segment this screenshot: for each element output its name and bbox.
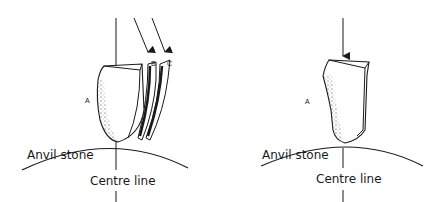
label-flake-c: C (167, 60, 172, 67)
label-centre-line: Centre line (316, 172, 382, 186)
label-anvil-stone: Anvil stone (27, 148, 94, 162)
left-figure-drawing (0, 0, 219, 202)
strike-arrow-c (152, 18, 165, 52)
strike-arrow-b (134, 18, 148, 52)
bipolar-flaking-figure-right: A Anvil stone Centre line (219, 0, 438, 202)
label-core-a: A (85, 97, 90, 104)
label-centre-line: Centre line (90, 174, 156, 188)
bipolar-flaking-figure-left: A B C Anvil stone Centre line (0, 0, 219, 202)
label-flake-b: B (151, 60, 156, 67)
label-core-a: A (305, 98, 310, 105)
label-anvil-stone: Anvil stone (262, 148, 329, 162)
